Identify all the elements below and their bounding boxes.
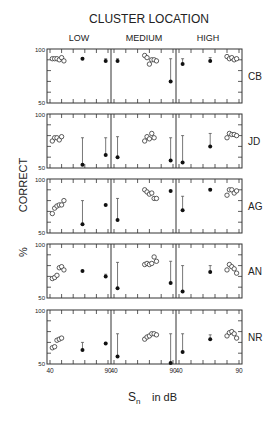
x-axis-label-subscript: n	[136, 397, 140, 406]
panel-ag-low	[50, 198, 108, 226]
open-circle-point	[225, 268, 229, 272]
open-circle-point	[59, 203, 63, 207]
open-circle-point	[225, 193, 229, 197]
filled-circle-point	[169, 79, 173, 83]
filled-circle-point	[104, 274, 108, 278]
subject-label-cb: CB	[248, 71, 262, 82]
panel-cb-low	[50, 55, 108, 63]
y-tick-label-50: 50	[38, 100, 45, 106]
column-header-low: LOW	[69, 33, 90, 43]
panel-frame	[47, 179, 242, 233]
subject-label-nr: NR	[248, 332, 262, 343]
subject-label-an: AN	[248, 266, 262, 277]
filled-circle-point	[116, 218, 120, 222]
filled-circle-point	[181, 208, 185, 212]
open-circle-point	[62, 59, 66, 63]
column-header-medium: MEDIUM	[126, 33, 163, 43]
panel-an-high	[181, 262, 239, 293]
filled-circle-point	[181, 350, 185, 354]
open-circle-point	[150, 191, 154, 195]
panel-jd-medium	[116, 131, 173, 162]
filled-circle-point	[104, 203, 108, 207]
x-tick-label-90: 90	[235, 367, 243, 374]
panel-an-low	[50, 264, 108, 280]
open-circle-point	[234, 336, 238, 340]
filled-circle-point	[181, 62, 185, 66]
panel-frame	[47, 244, 242, 298]
filled-circle-point	[80, 222, 84, 226]
open-circle-point	[59, 336, 63, 340]
filled-circle-point	[169, 158, 173, 162]
filled-circle-point	[116, 155, 120, 159]
panel-jd-high	[181, 131, 239, 164]
y-tick-label-100: 100	[35, 112, 46, 118]
open-circle-point	[154, 196, 158, 200]
panel-nr-low	[50, 336, 108, 352]
open-circle-point	[225, 136, 229, 140]
panel-an-medium	[116, 255, 173, 291]
open-circle-point	[62, 268, 66, 272]
filled-circle-point	[80, 348, 84, 352]
y-tick-label-50: 50	[38, 165, 45, 171]
open-circle-point	[234, 189, 238, 193]
open-circle-point	[147, 137, 151, 141]
filled-circle-point	[80, 57, 84, 61]
row-ag: 10050AG	[35, 177, 263, 236]
open-circle-point	[55, 273, 59, 277]
filled-circle-point	[116, 354, 120, 358]
y-tick-label-50: 50	[38, 230, 45, 236]
filled-circle-point	[169, 189, 173, 193]
filled-circle-point	[169, 361, 173, 365]
filled-circle-point	[208, 270, 212, 274]
open-circle-point	[234, 57, 238, 61]
y-axis-percent: %	[17, 247, 29, 257]
y-tick-label-100: 100	[35, 47, 46, 53]
filled-circle-point	[104, 341, 108, 345]
subject-label-jd: JD	[248, 136, 260, 147]
open-circle-point	[152, 136, 156, 140]
panel-cb-medium	[116, 53, 173, 83]
open-circle-point	[147, 62, 151, 66]
x-axis-label-units: in dB	[152, 391, 177, 403]
filled-circle-point	[116, 286, 120, 290]
panel-jd-low	[50, 134, 108, 166]
filled-circle-point	[181, 290, 185, 294]
filled-circle-point	[104, 153, 108, 157]
open-circle-point	[152, 255, 156, 259]
filled-circle-point	[208, 188, 212, 192]
open-circle-point	[62, 198, 66, 202]
y-axis-label: CORRECT	[17, 158, 29, 213]
cluster-location-chart: CLUSTER LOCATION LOW MEDIUM HIGH CORRECT…	[0, 0, 271, 424]
panel-ag-high	[181, 188, 239, 213]
x-axis-label-s: S	[128, 390, 136, 404]
subject-label-ag: AG	[248, 201, 263, 212]
open-circle-point	[145, 55, 149, 59]
filled-circle-point	[208, 59, 212, 63]
panel-cb-high	[181, 54, 239, 66]
panel-nr-medium	[116, 332, 173, 365]
open-circle-point	[154, 333, 158, 337]
open-circle-point	[232, 332, 236, 336]
row-jd: 10050JD	[35, 112, 260, 171]
open-circle-point	[150, 131, 154, 135]
y-tick-label-100: 100	[35, 177, 46, 183]
open-circle-point	[234, 271, 238, 275]
filled-circle-point	[181, 161, 185, 165]
open-circle-point	[234, 133, 238, 137]
panel-nr-high	[181, 329, 239, 354]
x-axis-label: S n in dB	[128, 390, 177, 406]
column-header-high: HIGH	[197, 33, 220, 43]
open-circle-point	[154, 59, 158, 63]
filled-circle-point	[80, 269, 84, 273]
y-tick-label-100: 100	[35, 308, 46, 314]
panel-ag-medium	[116, 188, 173, 222]
filled-circle-point	[208, 337, 212, 341]
open-circle-point	[52, 345, 56, 349]
chart-title: CLUSTER LOCATION	[89, 12, 209, 26]
open-circle-point	[150, 261, 154, 265]
filled-circle-point	[80, 163, 84, 167]
y-axis-label-word: CORRECT	[17, 158, 29, 213]
open-circle-point	[142, 139, 146, 143]
open-circle-point	[154, 259, 158, 263]
y-axis-percent-sign: %	[17, 247, 29, 257]
